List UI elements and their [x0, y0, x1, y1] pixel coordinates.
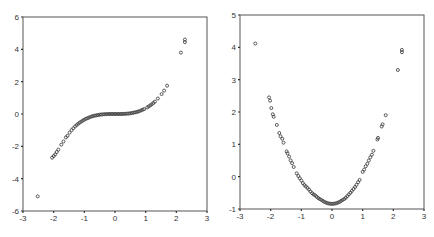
y-tick-label: 2 [232, 108, 237, 117]
data-points [36, 38, 186, 198]
data-point [179, 51, 182, 54]
scatter-plot-parabola: -3-2-10123 543210-1 [229, 11, 427, 221]
data-point [358, 178, 361, 181]
y-tick-label: 0 [232, 173, 237, 182]
x-tick-label: 1 [360, 212, 365, 221]
data-point [275, 123, 278, 126]
data-point [367, 159, 370, 162]
x-tick-label: 3 [422, 212, 427, 221]
x-tick-label: 0 [113, 214, 118, 223]
y-axis-ticks: 6420-2-4-6 [12, 13, 23, 216]
y-tick-label: 1 [232, 140, 237, 149]
x-tick-label: 2 [391, 212, 396, 221]
data-point [57, 148, 60, 151]
y-tick-label: -4 [12, 175, 20, 184]
data-point [396, 69, 399, 72]
y-tick-label: 4 [232, 43, 237, 52]
x-tick-label: -3 [236, 212, 244, 221]
data-point [270, 107, 273, 110]
data-point [268, 96, 271, 99]
data-point [291, 162, 294, 165]
data-point [278, 132, 281, 135]
x-tick-label: 2 [174, 214, 179, 223]
plot-frame [240, 15, 424, 209]
y-tick-label: 0 [15, 110, 20, 119]
data-point [282, 141, 285, 144]
data-point [269, 99, 272, 102]
x-tick-label: -1 [81, 214, 89, 223]
x-tick-label: 1 [143, 214, 148, 223]
x-axis-ticks: -3-2-10123 [19, 211, 209, 223]
y-tick-label: 5 [232, 11, 237, 20]
scatter-plot-cubic: -3-2-10123 6420-2-4-6 [12, 13, 210, 223]
y-tick-label: 6 [15, 13, 20, 22]
data-points [254, 42, 404, 205]
data-point [372, 149, 375, 152]
x-tick-label: 3 [205, 214, 210, 223]
data-point [292, 166, 295, 169]
data-point [160, 93, 163, 96]
y-tick-label: -2 [12, 142, 20, 151]
y-tick-label: 2 [15, 78, 20, 87]
data-point [163, 89, 166, 92]
y-tick-label: -6 [12, 207, 20, 216]
x-tick-label: 0 [330, 212, 335, 221]
data-point [166, 84, 169, 87]
data-point [370, 153, 373, 156]
y-tick-label: -1 [229, 205, 237, 214]
x-axis-ticks: -3-2-10123 [236, 209, 426, 221]
data-point [384, 114, 387, 117]
x-tick-label: -3 [19, 214, 27, 223]
figure: -3-2-10123 6420-2-4-6 -3-2-10123 543210-… [0, 0, 434, 237]
y-axis-ticks: 543210-1 [229, 11, 240, 214]
data-point [288, 155, 291, 158]
x-tick-label: -2 [50, 214, 58, 223]
data-point [254, 42, 257, 45]
data-point [156, 97, 159, 100]
y-tick-label: 3 [232, 76, 237, 85]
x-tick-label: -2 [267, 212, 275, 221]
x-tick-label: -1 [298, 212, 306, 221]
data-point [60, 143, 63, 146]
data-point [72, 127, 75, 130]
y-tick-label: 4 [15, 45, 20, 54]
data-point [281, 137, 284, 140]
data-point [366, 162, 369, 165]
data-point [36, 195, 39, 198]
data-point [62, 140, 65, 143]
